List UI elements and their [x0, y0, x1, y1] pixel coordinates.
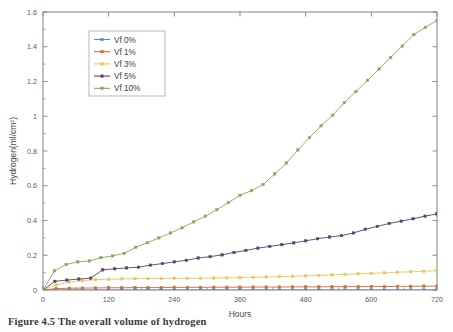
series-marker: [199, 277, 202, 280]
series-marker: [226, 286, 229, 289]
series-marker: [366, 79, 369, 82]
series-marker: [173, 289, 176, 292]
series-marker: [423, 270, 426, 273]
x-tick-label: 120: [103, 295, 115, 304]
figure-container: 00.20.40.60.811.21.41.601202403604806007…: [0, 0, 453, 332]
x-tick-label: 480: [300, 295, 312, 304]
series-marker: [291, 289, 294, 292]
series-marker: [355, 90, 358, 93]
series-marker: [226, 289, 229, 292]
series-marker: [221, 254, 224, 257]
series-marker: [54, 280, 57, 283]
series-marker: [262, 183, 265, 186]
series-marker: [383, 289, 386, 292]
legend-marker: [101, 87, 104, 90]
series-marker: [147, 277, 150, 280]
series-marker: [111, 255, 114, 258]
series-marker: [90, 277, 93, 280]
series-marker: [250, 189, 253, 192]
series-marker: [409, 289, 412, 292]
series-marker: [226, 277, 229, 280]
series-marker: [204, 215, 207, 218]
series-marker: [257, 247, 260, 250]
series-marker: [269, 245, 272, 248]
y-tick-label: 1.4: [27, 42, 37, 51]
series-marker: [265, 286, 268, 289]
series-marker: [107, 286, 110, 289]
legend-item-label[interactable]: Vf 3%: [114, 60, 136, 69]
figure-caption: Figure 4.5 The overall volume of hydroge…: [8, 316, 448, 327]
legend-item-label[interactable]: Vf 10%: [114, 84, 140, 93]
series-marker: [147, 286, 150, 289]
legend-marker: [101, 50, 104, 53]
series-marker: [413, 33, 416, 36]
series-marker: [66, 279, 69, 282]
series-marker: [239, 286, 242, 289]
x-tick-label: 720: [431, 295, 443, 304]
series-marker: [400, 220, 403, 223]
series-marker: [396, 289, 399, 292]
series-marker: [436, 289, 439, 292]
series-marker: [396, 271, 399, 274]
series-marker: [308, 136, 311, 139]
y-tick-label: 0.2: [27, 251, 37, 260]
data-series: [42, 289, 439, 292]
series-marker: [212, 289, 215, 292]
series-marker: [252, 276, 255, 279]
series-marker: [134, 286, 137, 289]
series-marker: [285, 162, 288, 165]
series-marker: [81, 280, 84, 283]
series-marker: [304, 240, 307, 243]
series-marker: [409, 285, 412, 288]
series-marker: [134, 246, 137, 249]
series-marker: [173, 277, 176, 280]
series-marker: [412, 218, 415, 221]
series-marker: [364, 228, 367, 231]
series-marker: [160, 277, 163, 280]
legend-item-label[interactable]: Vf 5%: [114, 72, 136, 81]
series-marker: [181, 227, 184, 230]
series-marker: [383, 285, 386, 288]
series-marker: [436, 213, 439, 216]
series-marker: [101, 269, 104, 272]
series-marker: [376, 225, 379, 228]
series-marker: [81, 287, 84, 290]
series-marker: [396, 285, 399, 288]
svg-text:Hydrogen(ml/cm²): Hydrogen(ml/cm²): [8, 117, 18, 185]
y-tick-label: 0: [33, 286, 37, 295]
series-marker: [265, 289, 268, 292]
series-marker: [265, 276, 268, 279]
series-marker: [304, 289, 307, 292]
series-marker: [318, 289, 321, 292]
series-marker: [161, 262, 164, 265]
series-marker: [343, 101, 346, 104]
series-marker: [292, 242, 295, 245]
legend-marker: [101, 38, 104, 41]
y-tick-label: 0.8: [27, 147, 37, 156]
series-marker: [78, 278, 81, 281]
legend-item-label[interactable]: Vf 0%: [114, 36, 136, 45]
series-marker: [436, 285, 439, 288]
series-marker: [281, 243, 284, 246]
series-marker: [186, 286, 189, 289]
series-marker: [239, 289, 242, 292]
series-marker: [436, 269, 439, 272]
series-marker: [378, 68, 381, 71]
series-marker: [318, 274, 321, 277]
series-marker: [357, 273, 360, 276]
series-marker: [192, 221, 195, 224]
series-marker: [291, 275, 294, 278]
legend-item-label[interactable]: Vf 1%: [114, 48, 136, 57]
series-marker: [88, 260, 91, 263]
series-marker: [65, 263, 68, 266]
x-tick-label: 360: [234, 295, 246, 304]
series-marker: [252, 286, 255, 289]
series-marker: [147, 289, 150, 292]
series-marker: [55, 284, 58, 287]
series-marker: [94, 279, 97, 282]
x-tick-label: 600: [365, 295, 377, 304]
series-marker: [160, 286, 163, 289]
series-marker: [331, 285, 334, 288]
y-tick-label: 1.6: [27, 8, 37, 17]
chart-legend[interactable]: Vf 0%Vf 1%Vf 3%Vf 5%Vf 10%: [89, 31, 165, 96]
